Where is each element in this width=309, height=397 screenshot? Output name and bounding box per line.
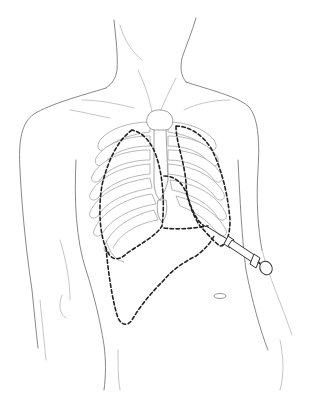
neck <box>106 18 196 112</box>
liver-outline <box>106 236 214 324</box>
syringe <box>206 226 275 277</box>
navel <box>214 294 226 299</box>
anatomy-illustration <box>0 0 309 397</box>
